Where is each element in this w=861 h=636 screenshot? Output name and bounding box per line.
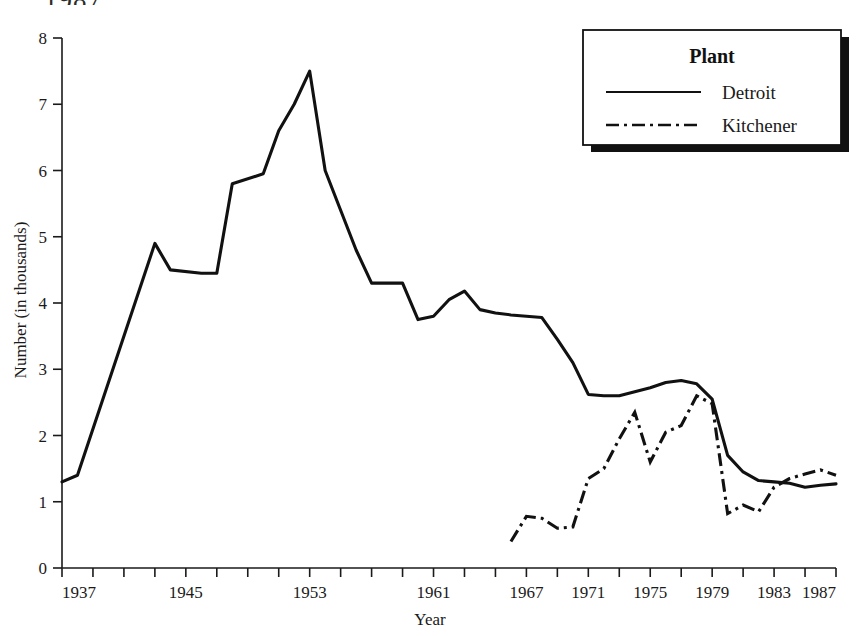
x-tick-label: 1987 [802,583,837,602]
y-tick-label: 0 [39,559,48,578]
series-line-kitchener [511,396,836,542]
y-tick-label: 4 [39,294,48,313]
chart-legend: Plant Detroit Kitchener [583,30,849,152]
cutoff-header-text: 1987 [44,0,102,5]
x-tick-label: 1983 [757,583,791,602]
x-tick-label: 1979 [695,583,729,602]
y-axis: 012345678 Number (in thousands) [11,29,62,578]
y-tick-label: 6 [39,162,48,181]
x-tick-label: 1971 [571,583,605,602]
y-tick-label: 3 [39,360,48,379]
chart-figure: 1987 012345678 Number (in thousands) 193… [0,0,861,636]
x-axis-title: Year [414,610,446,629]
y-axis-ticks [53,38,62,568]
legend-title: Plant [689,45,735,67]
y-tick-label: 5 [39,228,48,247]
line-chart: 012345678 Number (in thousands) 19371945… [0,0,861,636]
y-tick-label: 1 [39,493,48,512]
x-tick-label: 1961 [417,583,451,602]
x-axis-ticks [62,568,836,577]
x-axis: 1937194519531961196719711975197919831987… [62,568,837,629]
y-tick-label: 2 [39,427,48,446]
y-tick-label: 8 [39,29,48,48]
y-axis-title: Number (in thousands) [11,222,30,379]
legend-label-kitchener: Kitchener [722,115,798,136]
x-tick-label: 1953 [293,583,327,602]
x-tick-label: 1937 [62,583,97,602]
y-axis-tick-labels: 012345678 [39,29,48,578]
legend-label-detroit: Detroit [722,82,777,103]
x-tick-label: 1945 [169,583,203,602]
x-tick-label: 1975 [633,583,667,602]
x-tick-label: 1967 [509,583,544,602]
x-axis-tick-labels: 1937194519531961196719711975197919831987 [62,583,837,602]
y-tick-label: 7 [39,95,48,114]
